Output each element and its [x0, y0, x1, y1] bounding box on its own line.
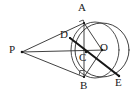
point-dot-A	[83, 22, 85, 24]
vertex-label-B: B	[80, 80, 87, 91]
vertex-label-E: E	[115, 77, 122, 88]
segment-P-O	[22, 50, 105, 52]
point-dot-D	[69, 37, 71, 39]
vertex-label-D: D	[60, 29, 68, 40]
vertex-label-A: A	[78, 2, 86, 13]
vertex-label-O: O	[100, 42, 108, 53]
segment-D-E	[70, 38, 119, 76]
vertex-label-P: P	[9, 44, 15, 55]
point-dot-P	[21, 51, 24, 54]
geometry-figure: P A B D C O E	[0, 0, 139, 97]
vertex-label-C: C	[79, 52, 86, 63]
point-dot-B	[83, 76, 85, 78]
radius-B-O	[84, 50, 102, 77]
